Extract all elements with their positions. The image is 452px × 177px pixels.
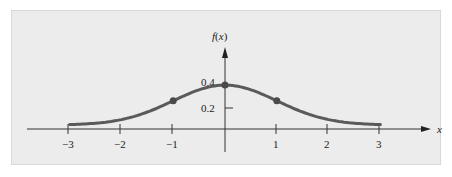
x-axis-arrow-icon bbox=[421, 126, 431, 132]
y-tick-label-02: 0.2 bbox=[201, 102, 215, 114]
y-axis-label: f(x) bbox=[212, 30, 228, 43]
data-point bbox=[273, 97, 280, 104]
y-axis-arrow-icon bbox=[222, 47, 228, 58]
x-axis-label: x bbox=[436, 123, 442, 135]
x-tick-label-m3: −3 bbox=[62, 138, 74, 150]
x-tick-label-1: 1 bbox=[273, 138, 279, 150]
data-point bbox=[222, 82, 229, 89]
x-tick-label-3: 3 bbox=[376, 138, 382, 150]
x-tick-label-2: 2 bbox=[324, 138, 330, 150]
normal-density-chart: x f(x) 0.2 0.4 −3 −2 −1 1 2 3 bbox=[0, 0, 452, 177]
x-tick-label-m2: −2 bbox=[114, 138, 126, 150]
x-tick-label-m1: −1 bbox=[166, 138, 178, 150]
data-point bbox=[170, 97, 177, 104]
